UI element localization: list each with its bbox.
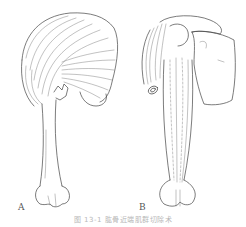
anatomical-figure: A B [0,0,246,212]
panel-a-drawing [22,13,118,207]
figure-caption: 图 13-1 肱骨近端肌群切除术 [0,214,246,224]
panel-label-a: A [18,202,25,212]
anatomy-illustration [0,0,246,212]
panel-label-b: B [139,202,146,212]
panel-b-drawing [142,16,235,206]
